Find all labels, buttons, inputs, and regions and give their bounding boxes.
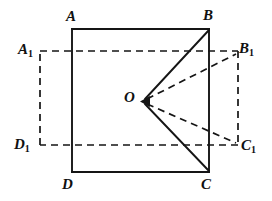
geometry-figure: A B O D C A1 B1 C1 D1 bbox=[0, 0, 272, 201]
vertex-label-B1: B1 bbox=[239, 41, 254, 57]
dashed-rays-from-O bbox=[147, 54, 236, 143]
vertex-label-C1: C1 bbox=[241, 138, 256, 154]
vertex-label-C1-base: C bbox=[241, 137, 251, 153]
vertex-label-B1-subscript: 1 bbox=[249, 47, 254, 58]
vertex-label-D: D bbox=[62, 177, 73, 192]
vertex-label-C: C bbox=[201, 177, 211, 192]
vertex-label-A: A bbox=[66, 9, 76, 24]
solid-ray-O-B bbox=[145, 30, 209, 99]
vertex-label-O: O bbox=[124, 90, 135, 105]
vertex-label-A1-subscript: 1 bbox=[28, 48, 33, 59]
vertex-label-D1-subscript: 1 bbox=[25, 143, 30, 154]
dashed-ray-O-B1 bbox=[147, 54, 236, 99]
solid-ray-O-C bbox=[145, 104, 209, 171]
vertex-label-D1-base: D bbox=[14, 136, 25, 152]
vertex-label-A1: A1 bbox=[18, 42, 33, 58]
vertex-label-C1-subscript: 1 bbox=[251, 144, 256, 155]
vertex-label-B: B bbox=[203, 8, 213, 23]
vertex-label-B1-base: B bbox=[239, 40, 249, 56]
dashed-ray-O-C1 bbox=[147, 104, 236, 143]
vertex-label-D1: D1 bbox=[14, 137, 30, 153]
geometry-canvas bbox=[0, 0, 272, 201]
vertex-label-A1-base: A bbox=[18, 41, 28, 57]
